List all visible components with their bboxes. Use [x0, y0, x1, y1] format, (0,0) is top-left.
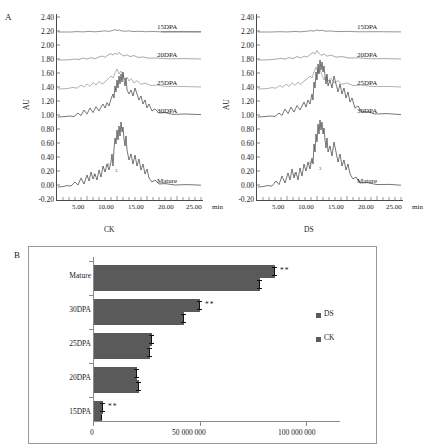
y-tick: 2.20	[41, 28, 54, 36]
trace-label-25dpa-ck: 25DPA	[157, 79, 177, 87]
y-tick: 1.40	[41, 84, 54, 92]
y-axis-label-ck: AU	[22, 99, 31, 110]
plot-area-ck: 1 2 3 15DPA 20DPA 25DPA 30DPA Mature	[56, 14, 203, 201]
panel-a-chromatograms: A 2.40 2.20 2.00 1.80 1.60 1.40 1.20 1.0…	[0, 0, 405, 238]
x-tick: 25.00	[186, 203, 202, 211]
trace-label-25dpa-ds: 25DPA	[357, 79, 377, 87]
significance-30dpa: **	[205, 300, 215, 309]
errorbar-cap	[181, 314, 186, 315]
legend-label-ds[interactable]: DS	[324, 309, 334, 318]
errorbar-cap	[134, 377, 139, 378]
y-tick: 1.80	[41, 56, 54, 64]
trace-label-mature-ds: Mature	[357, 177, 377, 185]
errorbar-cap	[197, 309, 202, 310]
y-tick: 1.20	[41, 98, 54, 106]
x-tick: 20.00	[158, 203, 174, 211]
y-tick: 0.80	[41, 126, 54, 134]
y-tick: 0.00	[241, 182, 254, 190]
errorbar-cap	[197, 301, 202, 302]
caption-ck: CK	[104, 225, 114, 234]
bar-ds-25dpa[interactable]	[94, 333, 152, 346]
category-tick	[89, 363, 94, 364]
value-tick-100m	[306, 421, 307, 426]
errorbar-cap	[257, 280, 262, 281]
y-tick: 0.40	[41, 154, 54, 162]
y-tick: 1.80	[241, 56, 254, 64]
peak-number-1: 1	[93, 172, 95, 177]
bar-ds-30dpa[interactable]	[94, 299, 200, 312]
category-tick	[89, 295, 94, 296]
x-tick: 10.00	[98, 203, 114, 211]
errorbar-cap	[147, 348, 152, 349]
bar-ck-mature[interactable]	[94, 278, 260, 291]
x-tick: 15.00	[328, 203, 344, 211]
x-tick: 10.00	[298, 203, 314, 211]
errorbar-cap	[100, 403, 105, 404]
errorbar-cap	[149, 343, 154, 344]
errorbar-cap	[181, 322, 186, 323]
x-tick: 15.00	[128, 203, 144, 211]
value-tick-label-100m: 100 000 000	[278, 428, 316, 437]
panel-a-letter: A	[5, 12, 12, 22]
bar-ds-mature[interactable]	[94, 265, 275, 278]
peak-number-3: 3	[319, 166, 321, 171]
errorbar-cap	[100, 411, 105, 412]
y-tick: 1.20	[241, 98, 254, 106]
category-tick	[89, 397, 94, 398]
trace-label-30dpa-ck: 30DPA	[157, 107, 177, 115]
y-tick: 0.80	[241, 126, 254, 134]
errorbar-cap	[147, 356, 152, 357]
plot-area-ds: 1 2 3 15DPA 20DPA 25DPA 30DPA Mature	[256, 14, 403, 201]
y-tick: 1.60	[41, 70, 54, 78]
trace-label-15dpa-ck: 15DPA	[157, 23, 177, 31]
caption-ds: DS	[304, 225, 314, 234]
category-tick	[89, 261, 94, 262]
y-tick: 0.60	[241, 140, 254, 148]
y-tick: 0.20	[241, 168, 254, 176]
y-tick: 2.00	[241, 42, 254, 50]
peak-number-1: 1	[293, 172, 295, 177]
trace-label-30dpa-ds: 30DPA	[357, 107, 377, 115]
y-tick: 1.00	[41, 112, 54, 120]
x-axis-unit: min	[412, 203, 423, 211]
errorbar-cap	[134, 369, 139, 370]
bar-ck-20dpa[interactable]	[94, 380, 139, 393]
trace-label-mature-ck: Mature	[157, 177, 177, 185]
errorbar-cap	[257, 288, 262, 289]
value-tick-label-0: 0	[90, 428, 94, 437]
x-tick: 5.00	[272, 203, 284, 211]
y-tick: 2.40	[241, 14, 254, 22]
trace-label-20dpa-ck: 20DPA	[157, 51, 177, 59]
y-tick: 2.20	[241, 28, 254, 36]
errorbar-cap	[149, 335, 154, 336]
errorbar-cap	[272, 267, 277, 268]
y-tick: 2.00	[41, 42, 54, 50]
value-tick-0	[93, 421, 94, 426]
trace-label-20dpa-ds: 20DPA	[357, 51, 377, 59]
panel-b-barchart: Mature 30DPA 25DPA 20DPA 15DPA **	[28, 246, 377, 444]
x-tick: 20.00	[358, 203, 374, 211]
chromatogram-ds: 2.40 2.20 2.00 1.80 1.60 1.40 1.20 1.00 …	[222, 14, 402, 214]
y-tick: -0.20	[38, 196, 54, 204]
bar-ck-25dpa[interactable]	[94, 346, 150, 359]
y-axis-label-ds: AU	[222, 99, 231, 110]
y-tick: 1.60	[241, 70, 254, 78]
peak-number-2: 2	[309, 160, 311, 165]
bar-ds-20dpa[interactable]	[94, 367, 137, 380]
errorbar-ck-15dpa	[101, 415, 102, 420]
y-tick: 0.00	[41, 182, 54, 190]
legend-swatch-ck	[316, 337, 321, 342]
significance-mature: **	[280, 266, 290, 275]
chromatogram-ck: 2.40 2.20 2.00 1.80 1.60 1.40 1.20 1.00 …	[22, 14, 202, 214]
y-tick: 2.40	[41, 14, 54, 22]
bar-ck-30dpa[interactable]	[94, 312, 184, 325]
x-axis-ticks-ds: 5.00 10.00 15.00 20.00 25.00 min	[256, 200, 421, 222]
category-label-mature: Mature	[39, 271, 91, 280]
x-tick: 25.00	[386, 203, 402, 211]
errorbar-cap	[136, 382, 141, 383]
legend-label-ck[interactable]: CK	[324, 333, 334, 342]
peak-number-2: 2	[107, 162, 109, 167]
category-label-15dpa: 15DPA	[39, 407, 91, 416]
y-tick: 1.40	[241, 84, 254, 92]
y-tick: -0.20	[238, 196, 254, 204]
